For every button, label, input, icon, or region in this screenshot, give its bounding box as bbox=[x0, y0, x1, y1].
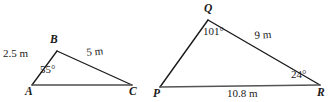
vertex-label-r: R bbox=[317, 87, 325, 99]
vertex-label-q: Q bbox=[204, 3, 212, 15]
segment-pq bbox=[160, 20, 208, 87]
angle-label-r: 24° bbox=[291, 69, 306, 80]
vertex-label-p: P bbox=[153, 88, 160, 100]
vertex-label-c: C bbox=[129, 86, 137, 98]
angle-label-q: 101° bbox=[203, 26, 224, 37]
side-label-ab: 2.5 m bbox=[3, 48, 28, 59]
side-label-pr: 10.8 m bbox=[227, 88, 258, 99]
vertex-label-b: B bbox=[50, 34, 58, 46]
angle-label-a: 55° bbox=[40, 64, 55, 75]
geometry-figure: A B C 2.5 m 5 m 55° Q P R 101° 24° 9 m 1… bbox=[0, 0, 334, 102]
figure-canvas bbox=[0, 0, 334, 102]
side-label-bc: 5 m bbox=[86, 45, 104, 58]
side-label-qr: 9 m bbox=[254, 29, 272, 41]
vertex-label-a: A bbox=[25, 86, 33, 98]
